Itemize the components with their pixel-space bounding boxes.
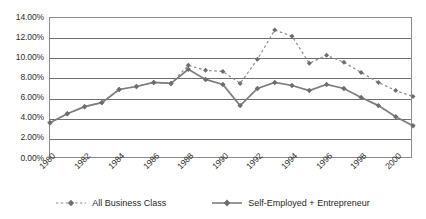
data-point-marker	[134, 84, 139, 89]
y-axis-tick-label: 0.00%	[0, 153, 44, 163]
data-point-marker	[255, 57, 260, 62]
data-point-marker	[82, 104, 87, 109]
y-axis-tick-label: 10.00%	[0, 52, 44, 62]
y-axis-tick-label: 2.00%	[0, 132, 44, 142]
y-axis-tick-label: 12.00%	[0, 32, 44, 42]
legend-label: All Business Class	[92, 198, 166, 208]
data-point-marker	[411, 94, 416, 99]
y-axis-tick-label: 8.00%	[0, 72, 44, 82]
series-self-employed-entrepreneur	[47, 67, 415, 129]
data-point-marker	[272, 28, 277, 33]
data-point-marker	[290, 34, 295, 39]
data-point-marker	[393, 88, 398, 93]
y-axis-tick-label: 4.00%	[0, 112, 44, 122]
legend-swatch-solid-icon	[212, 198, 242, 208]
data-point-marker	[341, 60, 346, 65]
data-point-marker	[324, 53, 329, 58]
legend-item-self-employed-entrepreneur[interactable]: Self-Employed + Entrepreneur	[212, 198, 369, 208]
data-point-marker	[359, 70, 364, 75]
legend-item-all-business-class[interactable]: All Business Class	[56, 198, 166, 208]
data-point-marker	[324, 82, 329, 87]
series-all-business-class	[48, 28, 416, 126]
data-point-marker	[203, 68, 208, 73]
legend: All Business Class Self-Employed + Entre…	[0, 192, 426, 214]
series-layer	[50, 18, 413, 159]
data-point-marker	[151, 80, 156, 85]
y-axis-tick-label: 14.00%	[0, 12, 44, 22]
legend-swatch-dotted-icon	[56, 198, 86, 208]
series-line	[50, 30, 413, 123]
data-point-marker	[307, 88, 312, 93]
plot-area	[49, 17, 412, 158]
y-axis-tick-label: 6.00%	[0, 92, 44, 102]
data-point-marker	[376, 80, 381, 85]
line-chart: 14.00%12.00%10.00%8.00%6.00%4.00%2.00%0.…	[0, 0, 426, 219]
legend-label: Self-Employed + Entrepreneur	[248, 198, 369, 208]
data-point-marker	[272, 80, 277, 85]
data-point-marker	[289, 83, 294, 88]
